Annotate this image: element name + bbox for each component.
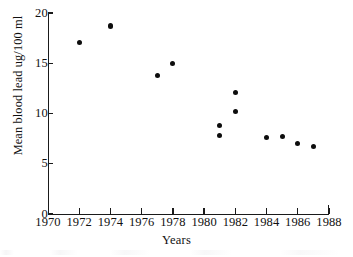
data-point [217,123,222,128]
data-point [280,134,285,139]
data-point [264,135,269,140]
data-point [108,23,113,28]
y-axis-title: Mean blood lead ug/100 ml [11,0,26,186]
data-point [295,141,300,146]
data-point [77,40,82,45]
x-axis-title: Years [0,233,353,248]
data-point [170,61,175,66]
plot-area [48,13,329,214]
data-point [233,90,238,95]
data-point [311,144,316,149]
scan-artifact [0,250,353,255]
x-tick-label-1988: 1988 [307,216,351,229]
data-point [155,73,160,78]
data-point [217,133,222,138]
scatter-chart: 05101520 1970197219741976197819801982198… [0,0,353,257]
data-point [233,109,238,114]
